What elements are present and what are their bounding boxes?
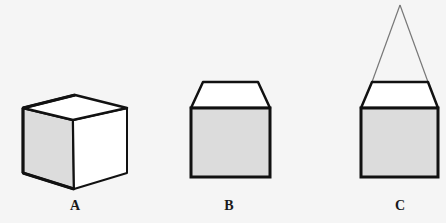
diagram-canvas: [0, 0, 446, 223]
vanishing-line-right: [400, 5, 428, 82]
figure-b-box: [191, 82, 270, 177]
figure-b-label: B: [224, 198, 233, 214]
trapezoid-top: [191, 82, 270, 108]
figure-a-label: A: [70, 198, 80, 214]
square-front: [191, 108, 270, 177]
figure-c-label: C: [395, 198, 405, 214]
square-front: [361, 108, 438, 177]
cube-right-face: [73, 108, 127, 189]
figure-c-box-with-vanishing-point: [361, 5, 438, 177]
trapezoid-top: [361, 82, 438, 108]
figure-a-cube: [23, 95, 127, 189]
vanishing-line-left: [372, 5, 400, 82]
